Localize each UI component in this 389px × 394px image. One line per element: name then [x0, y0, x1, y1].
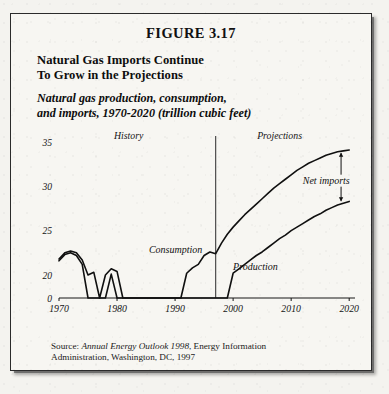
net-imports-arrow-down: [339, 187, 343, 202]
annotation-production: Production: [232, 261, 278, 272]
chart-series: [59, 150, 349, 298]
chart-annotations: ConsumptionProductionNet imports: [149, 153, 350, 272]
y-tick-30: 30: [41, 181, 52, 192]
chart-svg: 020253035 197019801990200020102020 Histo…: [23, 132, 361, 324]
x-tick-1990: 1990: [165, 303, 185, 314]
region-label-projections: Projections: [256, 132, 302, 141]
net-imports-arrow-up: [339, 153, 343, 175]
y-tick-25: 25: [42, 225, 52, 236]
x-tick-1970: 1970: [49, 303, 69, 314]
series-line-consumption: [59, 150, 349, 298]
region-labels: HistoryProjections: [113, 132, 302, 141]
x-tick-2010: 2010: [281, 303, 301, 314]
source-line2: Administration, Washington, DC, 1997: [51, 352, 351, 363]
y-tick-0: 0: [47, 293, 52, 304]
x-tick-2000: 2000: [223, 303, 243, 314]
figure-headline-line1: Natural Gas Imports Continue: [37, 53, 371, 68]
source-publication: Annual Energy Outlook 1998: [81, 341, 189, 351]
y-tick-20: 20: [42, 270, 52, 281]
figure-subtitle-line2: and imports, 1970-2020 (trillion cubic f…: [37, 106, 371, 120]
figure-box: FIGURE 3.17 Natural Gas Imports Continue…: [10, 13, 372, 371]
figure-page: FIGURE 3.17 Natural Gas Imports Continue…: [0, 0, 389, 394]
source-rest: , Energy Information: [189, 341, 266, 351]
x-axis-tick-labels: 197019801990200020102020: [49, 303, 359, 314]
figure-number: FIGURE 3.17: [11, 25, 371, 42]
figure-subtitle: Natural gas production, consumption, and…: [37, 91, 371, 120]
source-note: Source: Annual Energy Outlook 1998, Ener…: [51, 341, 351, 364]
figure-headline-line2: To Grow in the Projections: [37, 68, 371, 83]
x-tick-1980: 1980: [107, 303, 127, 314]
figure-subtitle-line1: Natural gas production, consumption,: [37, 91, 371, 105]
region-label-history: History: [113, 132, 144, 141]
y-tick-35: 35: [41, 137, 52, 148]
source-prefix: Source:: [51, 341, 81, 351]
figure-headline: Natural Gas Imports Continue To Grow in …: [37, 53, 371, 82]
line-chart: 020253035 197019801990200020102020 Histo…: [23, 132, 361, 324]
y-axis-tick-labels: 020253035: [41, 137, 52, 304]
annotation-net-imports: Net imports: [302, 175, 350, 186]
x-tick-2020: 2020: [339, 303, 359, 314]
annotation-consumption: Consumption: [149, 244, 202, 255]
